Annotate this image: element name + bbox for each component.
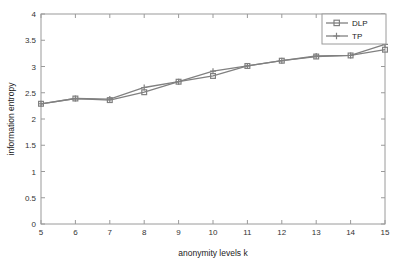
x-tick-label: 7	[108, 228, 113, 237]
chart-legend: DLP TP	[322, 14, 386, 44]
y-axis-title: information entropy	[6, 82, 16, 156]
y-tick-label: 2	[32, 115, 37, 124]
x-tick-label: 11	[243, 228, 252, 237]
y-tick-label: 4	[32, 10, 37, 19]
x-tick-label: 6	[73, 228, 78, 237]
y-tick-label: 0	[32, 220, 37, 229]
legend-label-dlp: DLP	[352, 19, 368, 28]
x-tick-label: 5	[39, 228, 44, 237]
line-chart-svg: 00.511.522.533.54 56789101112131415 anon…	[0, 0, 402, 263]
x-tick-label: 8	[142, 228, 147, 237]
y-tick-label: 0.5	[25, 194, 37, 203]
chart-figure: 00.511.522.533.54 56789101112131415 anon…	[0, 0, 402, 263]
x-axis-title: anonymity levels k	[178, 248, 248, 258]
x-tick-label: 15	[381, 228, 390, 237]
y-tick-label: 1.5	[25, 141, 37, 150]
y-tick-label: 3.5	[25, 36, 37, 45]
y-tick-label: 1	[32, 168, 37, 177]
x-tick-label: 12	[277, 228, 286, 237]
y-tick-label: 3	[32, 63, 37, 72]
legend-label-tp: TP	[352, 32, 362, 41]
y-tick-label: 2.5	[25, 89, 37, 98]
x-tick-label: 14	[346, 228, 355, 237]
x-tick-label: 9	[176, 228, 181, 237]
x-tick-label: 10	[209, 228, 218, 237]
x-tick-label: 13	[312, 228, 321, 237]
